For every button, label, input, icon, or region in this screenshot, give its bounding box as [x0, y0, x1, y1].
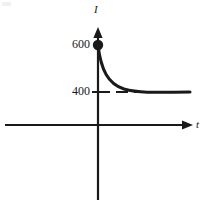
x-axis-arrowhead: [182, 120, 193, 129]
plot-canvas: [0, 0, 212, 207]
y-axis-label: I: [94, 4, 98, 15]
decay-curve: [98, 45, 190, 92]
y-tick-label-600: 600: [62, 38, 90, 50]
y-tick-label-400: 400: [62, 85, 90, 97]
initial-point-dot: [93, 40, 103, 50]
x-axis-label: t: [196, 119, 199, 130]
y-axis-arrowhead: [93, 27, 102, 38]
figure-container: I t 600 400: [0, 0, 212, 207]
